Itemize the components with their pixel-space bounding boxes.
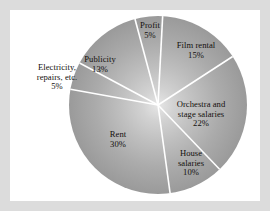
figure-container: Profit 5% Film rental 15% Orchestra and … <box>0 0 270 211</box>
pie-svg <box>10 10 260 201</box>
chart-panel: Profit 5% Film rental 15% Orchestra and … <box>10 10 260 201</box>
pie-chart: Profit 5% Film rental 15% Orchestra and … <box>10 10 260 201</box>
